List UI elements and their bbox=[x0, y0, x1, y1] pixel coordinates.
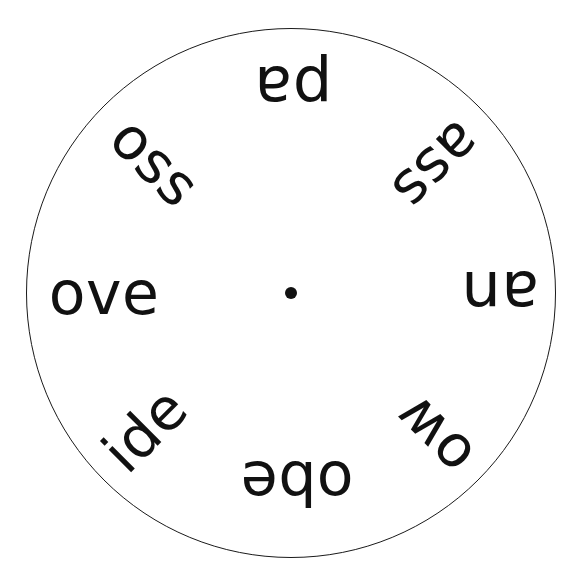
wheel-word-label: obe bbox=[240, 453, 353, 513]
wheel-word-label: ove bbox=[49, 263, 160, 323]
word-wheel-page: paassanowobeideoveoss bbox=[0, 0, 568, 585]
wheel-word-label: an bbox=[461, 262, 539, 324]
wheel-word-label: pa bbox=[254, 57, 332, 119]
center-dot-icon bbox=[285, 287, 297, 299]
